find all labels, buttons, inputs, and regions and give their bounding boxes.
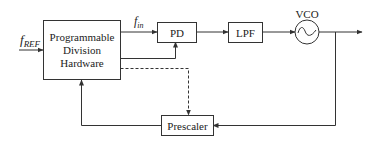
vco-block: VCO bbox=[295, 8, 319, 44]
pd-label: PD bbox=[170, 27, 184, 39]
prescaler-label: Prescaler bbox=[167, 120, 208, 132]
division-hardware-block: Programmable Division Hardware bbox=[44, 21, 121, 80]
phase-detector-block: PD bbox=[158, 23, 197, 43]
fin-label-sub: in bbox=[137, 21, 143, 30]
division-label-line1: Programmable bbox=[50, 31, 115, 43]
vco-to-prescaler-feedback-line bbox=[213, 32, 336, 126]
pll-block-diagram: fREF Programmable Division Hardware fin … bbox=[0, 0, 373, 143]
prescaler-block: Prescaler bbox=[162, 116, 214, 136]
division-to-pd-reference-line bbox=[121, 42, 176, 59]
vco-label: VCO bbox=[295, 8, 318, 20]
svg-text:fin: fin bbox=[134, 14, 144, 30]
division-to-prescaler-control-line bbox=[121, 69, 189, 116]
lpf-block: LPF bbox=[229, 23, 263, 43]
division-label-line3: Hardware bbox=[60, 57, 103, 69]
prescaler-to-division-feedback-line bbox=[82, 80, 162, 126]
lpf-label: LPF bbox=[236, 27, 255, 39]
fref-signal: fREF bbox=[19, 32, 43, 50]
fref-label-sub: REF bbox=[23, 39, 41, 49]
fin-signal: fin bbox=[121, 14, 158, 32]
svg-text:fREF: fREF bbox=[20, 32, 41, 49]
division-label-line2: Division bbox=[63, 44, 101, 56]
